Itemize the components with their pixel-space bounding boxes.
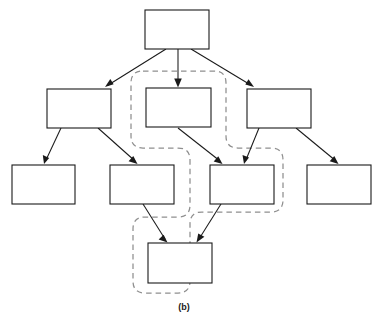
edge-mid-center-to-low-3 [178, 128, 223, 164]
node-root[interactable] [145, 10, 209, 49]
arrow-head-icon [197, 234, 205, 243]
node-mid-center[interactable] [146, 88, 211, 127]
edge-line [46, 128, 62, 161]
edge-root-to-mid-left [105, 49, 166, 87]
edge-line [246, 128, 260, 161]
edge-line [296, 128, 336, 161]
figure-caption: (b) [178, 302, 190, 312]
figure-diagram-b: (b) [0, 0, 383, 324]
arrow-head-icon [129, 156, 138, 164]
edge-low-2-to-bottom [143, 204, 168, 243]
diagram-canvas: (b) [0, 0, 383, 324]
edge-mid-right-to-low-3 [243, 128, 260, 164]
edge-line [108, 49, 167, 86]
edge-line [199, 204, 221, 239]
arrow-head-icon [105, 79, 114, 87]
node-low-1[interactable] [12, 165, 75, 204]
edge-line [178, 128, 220, 161]
edge-root-to-mid-right [191, 49, 254, 87]
edge-line [98, 128, 135, 161]
edge-mid-right-to-low-4 [296, 128, 339, 164]
arrow-head-icon [245, 79, 254, 87]
node-low-4[interactable] [307, 165, 371, 204]
arrow-head-icon [159, 235, 168, 243]
arrow-head-icon [174, 79, 182, 88]
node-low-2[interactable] [110, 165, 174, 204]
node-bottom[interactable] [148, 243, 212, 283]
edge-line [143, 204, 165, 239]
node-low-3[interactable] [210, 165, 274, 204]
arrow-head-icon [243, 155, 250, 164]
edge-mid-left-to-low-1 [43, 128, 61, 164]
node-mid-left[interactable] [47, 89, 111, 128]
node-layer [12, 10, 371, 283]
edge-root-to-mid-center [174, 49, 182, 88]
edge-low-3-to-bottom [197, 204, 222, 243]
node-mid-right[interactable] [247, 89, 311, 128]
edge-layer [43, 49, 339, 243]
edge-line [191, 49, 252, 86]
